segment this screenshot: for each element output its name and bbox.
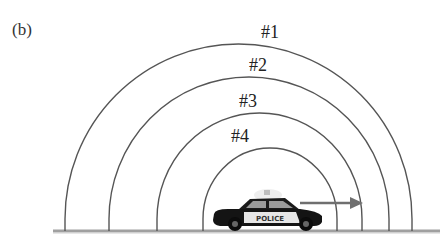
wavefront-labels: #1#2#3#4 xyxy=(231,22,279,146)
wavefront-label-1: #1 xyxy=(261,22,279,42)
wavefront-label-2: #2 xyxy=(249,55,267,75)
car-text: POLICE xyxy=(256,215,284,223)
doppler-diagram: #1#2#3#4 POLICE xyxy=(0,0,448,244)
wavefront-label-4: #4 xyxy=(231,126,249,146)
police-car: POLICE xyxy=(213,189,322,231)
velocity-arrow xyxy=(300,197,363,209)
wavefront-label-3: #3 xyxy=(239,91,257,111)
